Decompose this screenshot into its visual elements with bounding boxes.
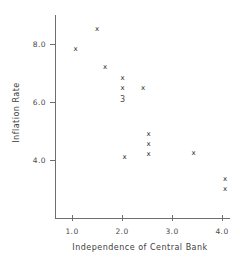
x-tick-mark bbox=[222, 215, 223, 221]
x-tick-label: 4.0 bbox=[209, 227, 235, 236]
data-point-marker: x bbox=[121, 153, 128, 161]
data-point-marker: x bbox=[222, 185, 229, 193]
data-point-marker: x bbox=[119, 84, 126, 92]
data-point-marker: x bbox=[94, 25, 101, 33]
scatter-plot-figure: 4.06.08.0 1.02.03.04.0 xxxxxxxxxxxxx 3 I… bbox=[0, 0, 240, 264]
data-point-marker: x bbox=[72, 45, 79, 53]
x-tick-label: 1.0 bbox=[59, 227, 85, 236]
y-tick-label: 4.0 bbox=[20, 156, 46, 165]
point-count-annotation: 3 bbox=[119, 95, 127, 104]
data-point-marker: x bbox=[145, 130, 152, 138]
y-tick-mark bbox=[50, 160, 56, 161]
data-point-marker: x bbox=[102, 63, 109, 71]
data-point-marker: x bbox=[190, 149, 197, 157]
y-tick-mark bbox=[50, 44, 56, 45]
x-axis-label: Independence of Central Bank bbox=[40, 243, 240, 252]
data-point-marker: x bbox=[145, 150, 152, 158]
y-axis-line bbox=[55, 15, 56, 218]
y-axis-label: Inflation Rate bbox=[12, 53, 21, 173]
data-point-marker: x bbox=[140, 84, 147, 92]
x-tick-mark bbox=[122, 215, 123, 221]
x-tick-mark bbox=[72, 215, 73, 221]
x-axis-line bbox=[55, 218, 230, 219]
x-tick-mark bbox=[172, 215, 173, 221]
x-tick-label: 2.0 bbox=[109, 227, 135, 236]
data-point-marker: x bbox=[145, 140, 152, 148]
y-tick-label: 8.0 bbox=[20, 40, 46, 49]
data-point-marker: x bbox=[222, 175, 229, 183]
y-tick-mark bbox=[50, 102, 56, 103]
data-point-marker: x bbox=[119, 74, 126, 82]
y-tick-label: 6.0 bbox=[20, 98, 46, 107]
x-tick-label: 3.0 bbox=[159, 227, 185, 236]
